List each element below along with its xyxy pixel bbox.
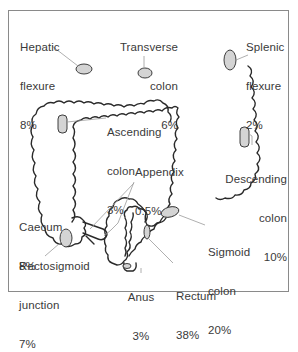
label-hepatic-flexure: Hepatic flexure 8% — [20, 15, 60, 145]
lesion-splenic-flexure — [224, 50, 236, 70]
label-anus: Anus 3% — [125, 265, 157, 352]
lesion-hepatic-flexure — [76, 64, 92, 74]
leader-ascending-colon — [67, 118, 106, 122]
label-rectosigmoid-junction: Rectosigmoid junction 7% — [19, 234, 90, 352]
label-appendix: Appendix 0.5% — [135, 140, 184, 231]
leader-rectum — [148, 238, 173, 263]
label-rectum: Rectum 38% — [176, 264, 216, 352]
label-splenic-flexure: Splenic flexure 2% — [246, 15, 284, 145]
